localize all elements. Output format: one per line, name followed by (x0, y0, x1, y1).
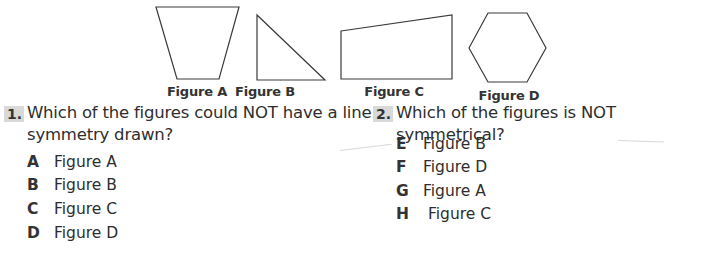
option-label: Figure D (423, 157, 487, 177)
option-letter: A (27, 152, 39, 172)
figure-a-trapezoid (156, 7, 239, 79)
option-letter: E (396, 134, 407, 154)
answer-option-g[interactable]: G Figure A (396, 181, 536, 201)
answer-option-f[interactable]: F Figure D (396, 157, 536, 177)
option-label: Figure C (54, 199, 117, 219)
option-label: Figure C (428, 204, 491, 224)
option-label: Figure B (54, 175, 117, 195)
figures-illustration (0, 0, 702, 110)
answer-option-d[interactable]: D Figure D (27, 223, 167, 243)
option-letter: G (396, 181, 409, 201)
option-label: Figure D (54, 223, 118, 243)
option-label: Figure A (54, 152, 117, 172)
option-letter: B (27, 175, 39, 195)
option-letter: D (27, 223, 40, 243)
question-1-text-line1: Which of the figures could NOT have a li… (27, 102, 392, 124)
figure-c-label: Figure C (364, 84, 424, 99)
option-label: Figure A (423, 181, 486, 201)
answer-option-b[interactable]: B Figure B (27, 175, 167, 195)
answer-option-a[interactable]: A Figure A (27, 152, 167, 172)
option-label: Figure B (423, 134, 486, 154)
option-letter: C (27, 199, 38, 219)
option-letter: H (396, 204, 409, 224)
figure-d-hexagon (469, 13, 546, 82)
stray-mark (340, 144, 392, 151)
question-1-text-line2: symmetry drawn? (27, 124, 173, 146)
question-2-number: 2. (373, 106, 393, 122)
figure-c-quadrilateral (341, 15, 452, 79)
figure-b-right-triangle (257, 15, 325, 80)
answer-option-h[interactable]: H Figure C (396, 204, 536, 224)
figure-a-label: Figure A (167, 84, 227, 99)
figure-d-label: Figure D (479, 88, 540, 103)
question-1-number: 1. (4, 106, 24, 122)
answer-option-e[interactable]: E Figure B (396, 134, 536, 154)
figure-b-label: Figure B (235, 84, 295, 99)
option-letter: F (396, 157, 407, 177)
answer-option-c[interactable]: C Figure C (27, 199, 167, 219)
